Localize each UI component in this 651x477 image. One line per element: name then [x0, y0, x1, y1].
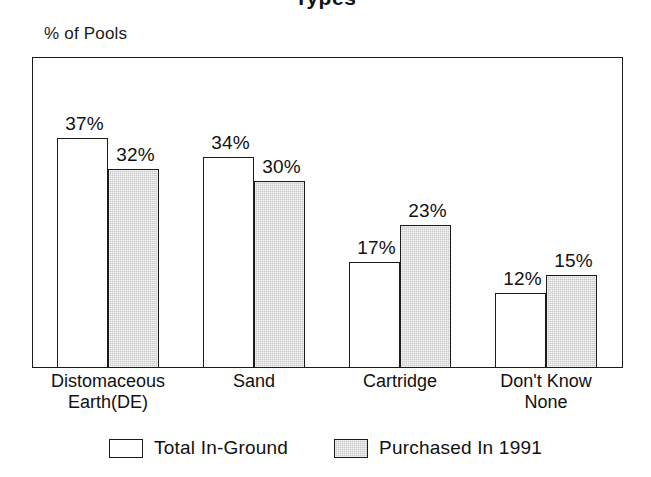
legend-label: Total In-Ground	[154, 437, 288, 459]
bar-chart-figure: Types % of Pools 37%32%34%30%17%23%12%15…	[0, 0, 651, 477]
legend-item-1: Purchased In 1991	[334, 437, 542, 459]
plot-area-frame	[32, 57, 623, 368]
x-axis-category-labels: DistomaceousEarth(DE)SandCartridgeDon't …	[32, 371, 623, 429]
legend-item-0: Total In-Ground	[109, 437, 288, 459]
chart-title-fragment: Types	[0, 0, 651, 12]
y-axis-label: % of Pools	[44, 24, 127, 44]
x-axis-label-2: Cartridge	[319, 371, 481, 392]
legend-label: Purchased In 1991	[379, 437, 542, 459]
x-axis-label-0: DistomaceousEarth(DE)	[27, 371, 189, 413]
chart-legend: Total In-GroundPurchased In 1991	[0, 437, 651, 459]
x-axis-label-3: Don't KnowNone	[465, 371, 627, 413]
gray-swatch	[334, 439, 368, 458]
x-axis-label-1: Sand	[173, 371, 335, 392]
white-swatch	[109, 439, 143, 458]
